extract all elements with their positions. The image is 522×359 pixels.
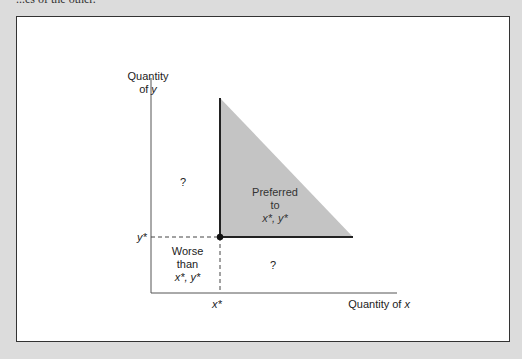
y-star-label: y*	[137, 231, 147, 244]
x-axis-var: x	[405, 298, 411, 310]
bundle-point	[217, 234, 223, 240]
x-star-label: x*	[212, 298, 222, 311]
worse-line3: x*, y*	[175, 271, 201, 283]
diagram-svg	[0, 0, 522, 359]
y-axis-label: Quantity of y	[113, 70, 183, 96]
preferred-line3: x*, y*	[262, 212, 288, 224]
worse-line1: Worse	[172, 245, 204, 257]
y-axis-label-line1: Quantity	[128, 70, 169, 82]
preferred-line1: Preferred	[252, 186, 298, 198]
x-axis-label-prefix: Quantity of	[348, 298, 404, 310]
lower-right-region-label: ?	[270, 259, 276, 272]
preferred-region-label: Preferred to x*, y*	[240, 186, 310, 225]
y-axis-label-prefix: of	[139, 83, 151, 95]
worse-line2: than	[177, 258, 198, 270]
preferred-line2: to	[270, 199, 279, 211]
x-axis-label: Quantity of x	[330, 298, 410, 311]
worse-region-label: Worse than x*, y*	[160, 245, 215, 284]
upper-left-region-label: ?	[180, 176, 186, 189]
y-axis-var: y	[151, 83, 157, 95]
